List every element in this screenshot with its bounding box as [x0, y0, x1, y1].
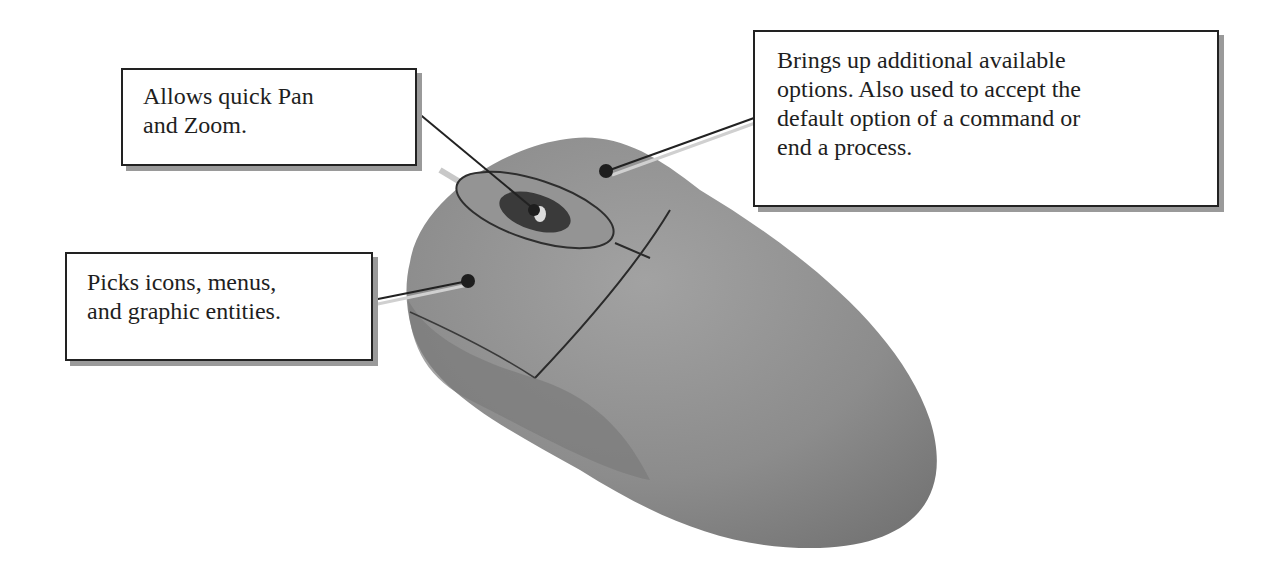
callout-text-line: Picks icons, menus, [87, 268, 371, 297]
callout-text-line: options. Also used to accept the [777, 75, 1217, 104]
leader-dot-middle [528, 204, 540, 216]
callout-text-line: Allows quick Pan [143, 82, 415, 111]
callout-text-line: and Zoom. [143, 111, 415, 140]
leader-right [607, 118, 754, 171]
callout-text-line: default option of a command or [777, 104, 1217, 133]
callout-middle-button: Allows quick Pan and Zoom. [121, 68, 417, 166]
callout-left-button: Picks icons, menus, and graphic entities… [65, 252, 373, 361]
callout-text-line: Brings up additional available [777, 46, 1217, 75]
callout-text-line: end a process. [777, 133, 1217, 162]
leader-dot-right [599, 164, 613, 178]
callout-text-line: and graphic entities. [87, 297, 371, 326]
leader-dot-left [461, 274, 475, 288]
callout-right-button: Brings up additional available options. … [753, 30, 1219, 207]
